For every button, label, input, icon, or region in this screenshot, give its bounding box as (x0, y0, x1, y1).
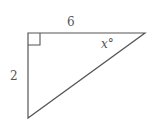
right-angle-marker (28, 33, 40, 45)
right-triangle (28, 33, 145, 118)
top-side-label: 6 (67, 15, 75, 29)
angle-label: x° (101, 37, 114, 51)
left-side-label: 2 (10, 69, 18, 83)
triangle-diagram: 6 2 x° (0, 0, 152, 130)
